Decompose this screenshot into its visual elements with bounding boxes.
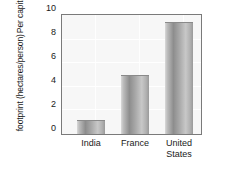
y-tick-label-10: 10 — [46, 4, 56, 13]
bar-france — [121, 75, 149, 135]
bar-chart: Per capita ecological footprint (hectare… — [0, 0, 230, 176]
y-tick-label-8: 8 — [51, 28, 56, 37]
bar-top-edge — [121, 75, 149, 76]
bar-united-states — [165, 22, 193, 134]
y-axis-tick-labels: 10 8 6 4 2 0 — [36, 8, 58, 136]
y-tick-label-6: 6 — [51, 52, 56, 61]
y-tick-label-2: 2 — [51, 100, 56, 109]
y-tick-label-0: 0 — [51, 124, 56, 133]
y-axis-title: Per capita ecological footprint (hectare… — [2, 0, 38, 104]
y-axis-title-line1: Per capita ecological — [15, 0, 25, 33]
y-axis-title-line2: footprint (hectares/person) — [15, 34, 25, 131]
x-tick-label-france: France — [121, 138, 149, 149]
y-tick-label-4: 4 — [51, 76, 56, 85]
x-axis-tick-labels: India France United States — [61, 138, 202, 172]
bar-series — [62, 15, 201, 134]
bar-top-edge — [77, 120, 105, 121]
bar-top-edge — [165, 22, 193, 23]
bar-india — [77, 120, 105, 134]
x-tick-label-india: India — [81, 138, 101, 149]
plot-area — [61, 14, 202, 135]
x-tick-label-united-states: United States — [166, 138, 192, 159]
